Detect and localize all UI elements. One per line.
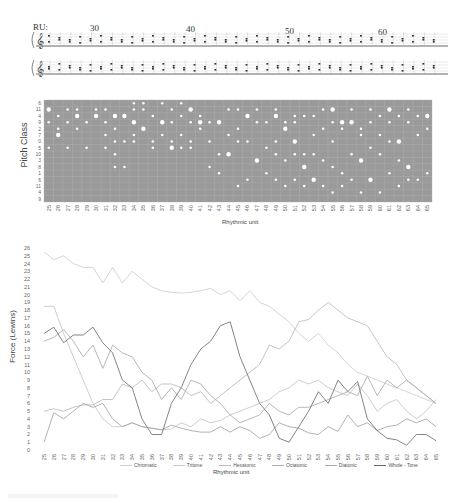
svg-text:26: 26 xyxy=(24,245,30,251)
legend-label: Hexatonic xyxy=(233,462,255,468)
svg-text:22: 22 xyxy=(24,276,30,282)
svg-text:62: 62 xyxy=(396,205,402,211)
svg-text:6: 6 xyxy=(27,400,30,406)
svg-text:53: 53 xyxy=(315,454,321,460)
pitch-class-plot: 6114927051038161149252627282930313233343… xyxy=(0,92,452,232)
svg-text:34: 34 xyxy=(131,205,137,211)
svg-text:5: 5 xyxy=(38,145,41,151)
svg-text:16: 16 xyxy=(24,323,30,329)
svg-text:28: 28 xyxy=(70,454,76,460)
svg-text:36: 36 xyxy=(150,205,156,211)
svg-text:61: 61 xyxy=(394,454,400,460)
svg-text:34: 34 xyxy=(129,454,135,460)
svg-text:63: 63 xyxy=(413,454,419,460)
svg-text:63: 63 xyxy=(405,205,411,211)
svg-text:7: 7 xyxy=(27,393,30,399)
svg-text:46: 46 xyxy=(247,454,253,460)
svg-text:61: 61 xyxy=(386,205,392,211)
svg-text:4: 4 xyxy=(38,189,41,195)
svg-text:1: 1 xyxy=(27,439,30,445)
svg-text:41: 41 xyxy=(197,205,203,211)
svg-text:17: 17 xyxy=(24,315,30,321)
svg-text:40: 40 xyxy=(188,205,194,211)
svg-text:56: 56 xyxy=(345,454,351,460)
legend-item-tritone: Tritone xyxy=(173,462,202,468)
svg-text:42: 42 xyxy=(207,205,213,211)
svg-text:55: 55 xyxy=(335,454,341,460)
svg-text:32: 32 xyxy=(110,454,116,460)
svg-text:60: 60 xyxy=(377,205,383,211)
svg-text:57: 57 xyxy=(349,205,355,211)
svg-text:47: 47 xyxy=(257,454,263,460)
svg-text:49: 49 xyxy=(273,205,279,211)
svg-text:35: 35 xyxy=(140,205,146,211)
svg-text:26: 26 xyxy=(55,205,61,211)
svg-text:48: 48 xyxy=(266,454,272,460)
svg-text:45: 45 xyxy=(235,205,241,211)
svg-text:8: 8 xyxy=(38,164,41,170)
legend-label: Whole - Tone xyxy=(388,462,417,468)
force-x-axis-title: Rhythmic unit xyxy=(213,469,249,475)
svg-text:15: 15 xyxy=(24,330,30,336)
svg-text:43: 43 xyxy=(217,454,223,460)
svg-text:46: 46 xyxy=(244,205,250,211)
svg-text:54: 54 xyxy=(325,454,331,460)
svg-text:18: 18 xyxy=(24,307,30,313)
svg-text:12: 12 xyxy=(24,354,30,360)
svg-text:36: 36 xyxy=(149,454,155,460)
svg-text:23: 23 xyxy=(24,268,30,274)
svg-text:51: 51 xyxy=(296,454,302,460)
chart-legend: ChromaticTritoneHexatonicOctatonicDiaton… xyxy=(120,462,440,470)
svg-text:32: 32 xyxy=(112,205,118,211)
svg-text:7: 7 xyxy=(38,132,41,138)
legend-label: Chromatic xyxy=(134,462,157,468)
svg-text:2: 2 xyxy=(38,126,41,132)
svg-text:53: 53 xyxy=(311,205,317,211)
svg-text:45: 45 xyxy=(237,454,243,460)
svg-text:38: 38 xyxy=(169,205,175,211)
svg-text:21: 21 xyxy=(24,284,30,290)
svg-text:3: 3 xyxy=(27,424,30,430)
svg-text:39: 39 xyxy=(178,205,184,211)
svg-text:65: 65 xyxy=(424,205,430,211)
svg-text:𝄞: 𝄞 xyxy=(36,32,44,49)
svg-text:50: 50 xyxy=(282,205,288,211)
svg-text:39: 39 xyxy=(178,454,184,460)
svg-text:10: 10 xyxy=(35,151,41,157)
legend-item-diatonic: Diatonic xyxy=(325,462,357,468)
force-line-chart: Force (Lewins) 0123456789101112131415161… xyxy=(0,240,452,485)
svg-text:14: 14 xyxy=(24,338,30,344)
svg-text:0: 0 xyxy=(38,138,41,144)
svg-text:11: 11 xyxy=(36,106,41,112)
svg-text:8: 8 xyxy=(27,385,30,391)
svg-text:57: 57 xyxy=(355,454,361,460)
svg-text:37: 37 xyxy=(159,205,165,211)
svg-text:33: 33 xyxy=(121,205,127,211)
legend-swatch xyxy=(173,465,185,466)
svg-text:56: 56 xyxy=(339,205,345,211)
svg-text:25: 25 xyxy=(24,253,30,259)
svg-text:9: 9 xyxy=(38,196,41,202)
svg-text:52: 52 xyxy=(306,454,312,460)
legend-swatch xyxy=(325,465,337,466)
legend-item-whole-tone: Whole - Tone xyxy=(374,462,417,468)
svg-text:1: 1 xyxy=(38,170,41,176)
svg-text:59: 59 xyxy=(367,205,373,211)
svg-text:11: 11 xyxy=(36,183,41,189)
score-staves: 𝄞𝄞 xyxy=(0,0,452,92)
svg-text:33: 33 xyxy=(119,454,125,460)
svg-text:58: 58 xyxy=(358,205,364,211)
svg-text:44: 44 xyxy=(227,454,233,460)
svg-text:42: 42 xyxy=(208,454,214,460)
svg-text:25: 25 xyxy=(46,205,52,211)
pitch-class-x-axis-title: Rhythmic unit xyxy=(222,219,258,225)
svg-text:62: 62 xyxy=(404,454,410,460)
svg-text:41: 41 xyxy=(198,454,204,460)
svg-text:31: 31 xyxy=(103,205,109,211)
legend-item-chromatic: Chromatic xyxy=(120,462,157,468)
svg-text:47: 47 xyxy=(254,205,260,211)
svg-text:11: 11 xyxy=(24,362,30,368)
svg-text:𝄞: 𝄞 xyxy=(36,60,44,77)
legend-swatch xyxy=(374,465,386,466)
svg-text:6: 6 xyxy=(38,100,41,106)
